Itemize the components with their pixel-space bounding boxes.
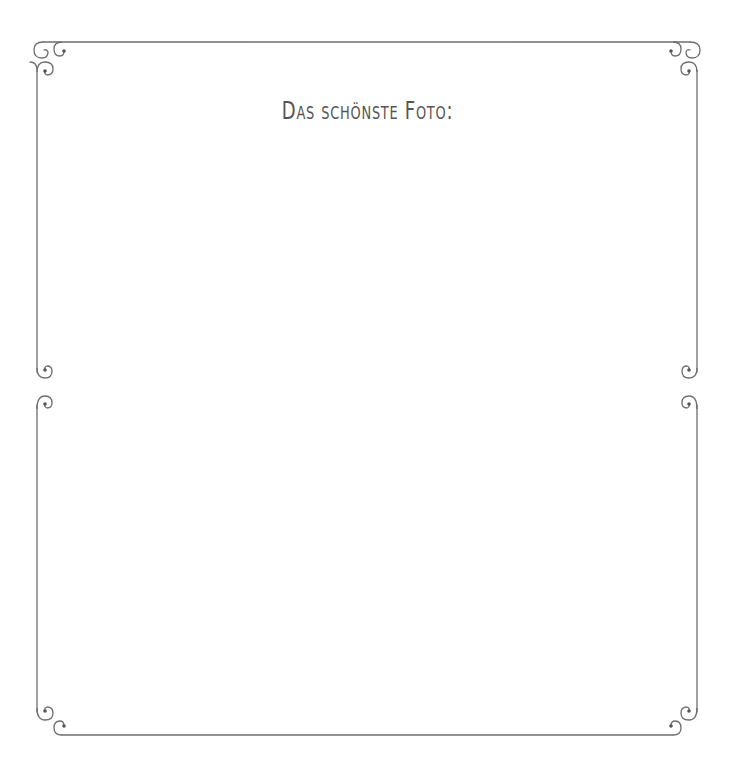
- top-right-curl: [686, 42, 700, 58]
- top-left-curl-outer: [34, 42, 48, 58]
- page-title: Das schönste Foto:: [103, 96, 632, 125]
- top-photo-area: [40, 140, 694, 370]
- bottom-photo-area: [40, 410, 694, 730]
